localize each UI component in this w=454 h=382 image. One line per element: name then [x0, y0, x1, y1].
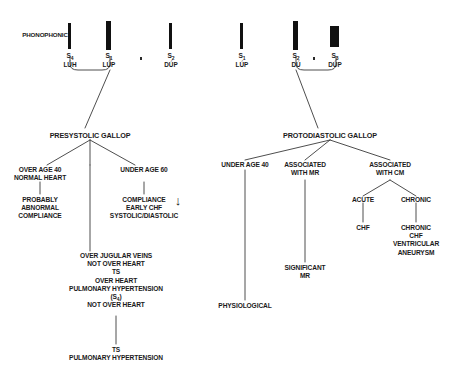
- gallop-flowchart-diagram: PHONOPHONIC S4 LÚH S1 LÚP S2 DÚP PRESYST…: [0, 0, 454, 382]
- node-jugular-findings: OVER JUGULAR VEINS NOT OVER HEART TS OVE…: [69, 252, 163, 310]
- node-chronic-chf-ventricular-aneurysm: CHRONIC CHF VENTRICULAR ANEURYSM: [393, 224, 439, 257]
- node-s4-parenthetical: (S4): [69, 293, 163, 301]
- node-over-age-40: OVER AGE 40 NORMAL HEART: [14, 166, 66, 182]
- sound-label-s1-left: S1 LÚP: [103, 52, 116, 69]
- node-under-age-40: UNDER AGE 40: [221, 161, 268, 169]
- sound-label-s4: S4 LÚH: [63, 52, 76, 69]
- node-chf: CHF: [356, 224, 369, 232]
- row-label-phonophonic: PHONOPHONIC: [22, 31, 68, 39]
- node-associated-with-cm: ASSOCIATED WITH CM: [369, 161, 411, 177]
- node-ts-pulmonary-hypertension: TS PULMONARY HYPERTENSION: [69, 346, 163, 362]
- node-significant-mr: SIGNIFICANT MR: [284, 264, 325, 280]
- timing-tick-right: [313, 57, 315, 60]
- node-compliance-early-chf: COMPLIANCE EARLY CHF SYSTOLIC/DIASTOLIC: [110, 196, 178, 221]
- sound-label-s1-right: S1 LÚP: [236, 52, 249, 69]
- arrow-down-icon: ↓: [175, 194, 182, 207]
- node-probably-abnormal-compliance: PROBABLY ABNORMAL COMPLIANCE: [18, 196, 61, 221]
- sound-bar-s4: [68, 23, 71, 49]
- sound-bar-s2-right: [293, 21, 298, 50]
- sound-label-s3-right: S3 DÚP: [328, 52, 342, 69]
- sound-bar-s3-right: [330, 26, 339, 47]
- node-under-age-60: UNDER AGE 60: [120, 166, 167, 174]
- sound-bar-s1-right: [240, 23, 243, 49]
- node-associated-with-mr: ASSOCIATED WITH MR: [284, 161, 326, 177]
- sound-label-s2-right: S2 DÚ: [291, 52, 300, 69]
- node-presystolic-gallop: PRESYSTOLIC GALLOP: [50, 131, 131, 140]
- sound-bar-s2-left: [169, 23, 172, 49]
- node-chronic: CHRONIC: [401, 196, 431, 204]
- node-acute: ACUTE: [352, 196, 374, 204]
- node-physiological: PHYSIOLOGICAL: [218, 302, 271, 310]
- sound-bar-s1-left: [106, 21, 111, 50]
- node-protodiastolic-gallop: PROTODIASTOLIC GALLOP: [283, 131, 377, 140]
- sound-label-s2-left: S2 DÚP: [164, 52, 178, 69]
- timing-tick-left: [140, 57, 142, 60]
